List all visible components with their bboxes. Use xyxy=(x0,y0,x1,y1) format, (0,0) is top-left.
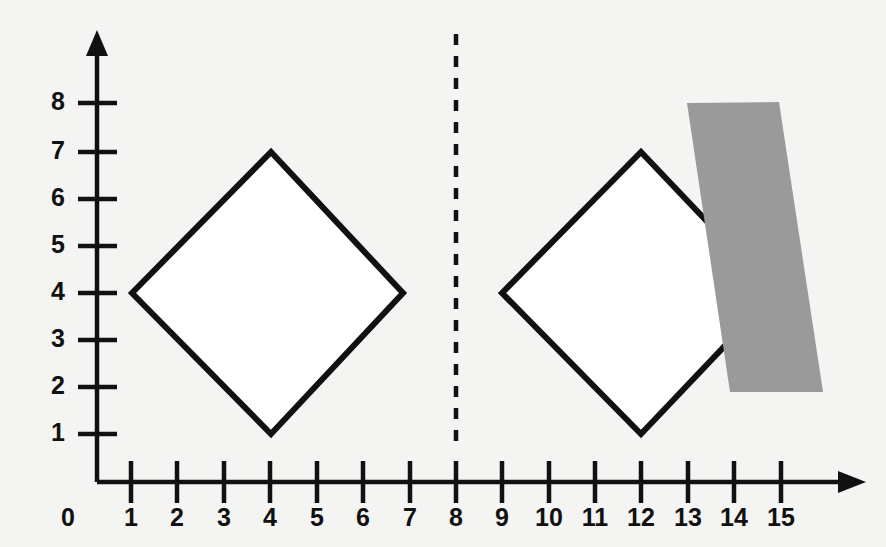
x-label-7: 7 xyxy=(403,503,417,531)
y-label-5: 5 xyxy=(51,230,65,258)
y-label-1: 1 xyxy=(51,418,65,446)
x-label-11: 11 xyxy=(582,503,609,531)
x-label-4: 4 xyxy=(263,503,277,531)
coordinate-plane-figure: 0 1 2 3 4 5 6 7 8 9 10 11 12 13 14 15 1 … xyxy=(0,0,886,547)
x-label-14: 14 xyxy=(720,503,748,531)
x-label-1: 1 xyxy=(124,503,138,531)
x-label-2: 2 xyxy=(170,503,184,531)
y-label-6: 6 xyxy=(51,183,65,211)
x-label-15: 15 xyxy=(767,503,795,531)
x-label-12: 12 xyxy=(627,503,655,531)
y-label-2: 2 xyxy=(51,371,65,399)
x-label-13: 13 xyxy=(674,503,702,531)
x-label-9: 9 xyxy=(495,503,509,531)
y-label-4: 4 xyxy=(51,277,65,305)
y-label-7: 7 xyxy=(51,136,65,164)
y-label-3: 3 xyxy=(51,324,65,352)
figure-root: 0 1 2 3 4 5 6 7 8 9 10 11 12 13 14 15 1 … xyxy=(0,0,886,547)
x-label-10: 10 xyxy=(535,503,563,531)
x-label-3: 3 xyxy=(217,503,231,531)
x-label-5: 5 xyxy=(310,503,324,531)
y-label-8: 8 xyxy=(51,87,65,115)
x-label-8: 8 xyxy=(449,503,463,531)
x-label-6: 6 xyxy=(356,503,370,531)
x-label-0: 0 xyxy=(61,503,75,531)
